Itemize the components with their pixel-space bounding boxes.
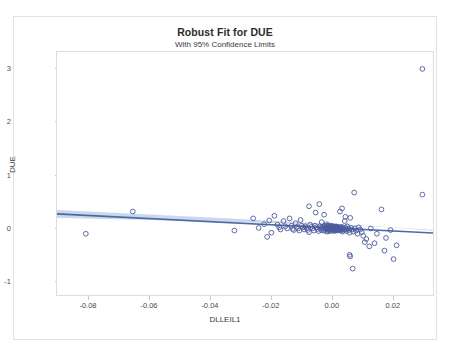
robust-fit-line <box>57 214 433 233</box>
data-point <box>232 228 237 233</box>
data-point <box>384 236 389 241</box>
y-tick-label: 3 <box>0 64 11 73</box>
x-tick-label: 0.00 <box>307 301 357 310</box>
data-point <box>272 213 277 218</box>
data-point <box>322 212 327 217</box>
x-tick-label: 0.02 <box>368 301 418 310</box>
data-point <box>350 266 355 271</box>
fit-line-group <box>57 214 433 233</box>
data-point <box>317 202 322 207</box>
scatter-points <box>83 67 424 271</box>
y-tick-label: 1 <box>0 170 11 179</box>
x-tick-mark <box>271 296 272 300</box>
y-tick-label: -1 <box>0 277 11 286</box>
x-tick-label: -0.06 <box>124 301 174 310</box>
data-point <box>391 257 396 262</box>
x-tick-label: -0.08 <box>63 301 113 310</box>
chart-card: Robust Fit for DUE With 95% Confidence L… <box>13 16 437 340</box>
data-point <box>352 190 357 195</box>
confidence-band-group <box>57 210 433 231</box>
data-point <box>287 216 292 221</box>
x-tick-label: -0.02 <box>246 301 296 310</box>
data-point <box>256 226 261 231</box>
data-point <box>307 204 312 209</box>
x-tick-mark <box>210 296 211 300</box>
data-point <box>394 243 399 248</box>
chart-subtitle: With 95% Confidence Limits <box>14 40 436 49</box>
data-point <box>298 218 303 223</box>
x-axis-label: DLLEIL1 <box>14 315 436 324</box>
chart-title: Robust Fit for DUE <box>14 26 436 38</box>
x-tick-mark <box>393 296 394 300</box>
x-tick-mark <box>332 296 333 300</box>
x-tick-mark <box>88 296 89 300</box>
data-point <box>130 209 135 214</box>
data-point <box>367 244 372 249</box>
data-point <box>372 241 377 246</box>
y-tick-label: 2 <box>0 117 11 126</box>
data-point <box>83 231 88 236</box>
y-tick-label: 0 <box>0 223 11 232</box>
data-point <box>265 235 270 240</box>
x-tick-label: -0.04 <box>185 301 235 310</box>
plot-svg <box>57 52 433 295</box>
data-point <box>420 192 425 197</box>
plot-area <box>56 51 434 296</box>
confidence-band <box>57 210 433 231</box>
data-point <box>375 231 380 236</box>
data-point <box>379 207 384 212</box>
x-tick-mark <box>149 296 150 300</box>
data-point <box>313 210 318 215</box>
data-point <box>269 230 274 235</box>
data-point <box>420 67 425 72</box>
data-point <box>382 248 387 253</box>
data-point <box>348 215 353 220</box>
